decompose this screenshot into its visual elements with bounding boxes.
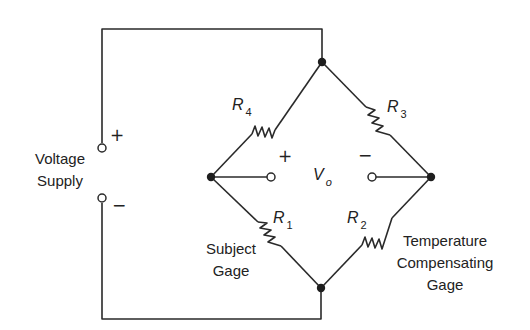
- node-left: [207, 173, 215, 181]
- output-voltage-label: Vo: [313, 164, 330, 187]
- subject-gage-note: Subject Gage: [196, 238, 266, 282]
- node-bottom: [317, 284, 325, 292]
- r4-label: R4: [232, 94, 250, 117]
- resistor-r4: [211, 62, 322, 177]
- supply-terminal-minus: [98, 194, 106, 202]
- r3-label: R3: [387, 96, 405, 119]
- supply-label-line1: Voltage: [28, 148, 92, 170]
- bridge-circuit-diagram: + − Voltage Supply + − Vo R4 R3 R1 R2 Su…: [0, 0, 530, 330]
- output-minus-sign: −: [358, 144, 372, 166]
- output-plus-sign: +: [278, 145, 292, 167]
- node-right: [427, 173, 435, 181]
- r2-label: R2: [347, 207, 365, 230]
- temperature-compensating-gage-note: Temperature Compensating Gage: [385, 230, 505, 296]
- supply-label: Voltage Supply: [28, 148, 92, 192]
- r1-label: R1: [273, 207, 291, 230]
- resistor-r3: [322, 62, 431, 177]
- top-supply-wire: [102, 29, 322, 143]
- output-terminal-plus: [267, 173, 275, 181]
- output-terminal-minus: [368, 173, 376, 181]
- supply-minus-sign: −: [112, 194, 126, 216]
- supply-terminal-plus: [98, 144, 106, 152]
- supply-label-line2: Supply: [28, 170, 92, 192]
- node-top: [318, 58, 326, 66]
- supply-plus-sign: +: [110, 124, 124, 146]
